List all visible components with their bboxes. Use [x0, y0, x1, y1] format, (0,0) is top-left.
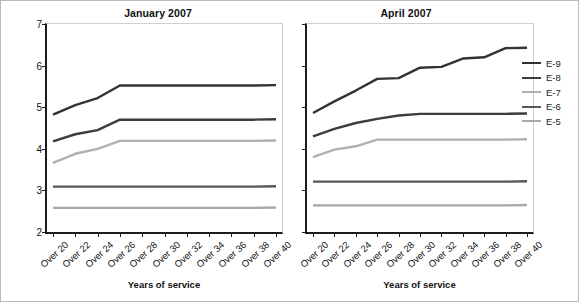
y-axis-tick-label: 7 — [36, 19, 47, 30]
x-axis-tick-mark — [120, 232, 121, 237]
legend-item-e-5[interactable]: E-5 — [522, 114, 578, 129]
panel-title-april: April 2007 — [286, 7, 526, 19]
x-axis-title-january: Years of service — [45, 279, 283, 290]
y-axis-tick-mark — [302, 149, 307, 150]
y-axis-tick-label: 6 — [36, 60, 47, 71]
series-line-e-9 — [53, 85, 276, 115]
legend-item-e-7[interactable]: E-7 — [522, 85, 578, 100]
x-axis-tick-mark — [187, 232, 188, 237]
x-axis-tick-mark — [399, 232, 400, 237]
y-axis-tick-label: 5 — [36, 102, 47, 113]
x-axis-tick-mark — [484, 232, 485, 237]
series-line-e-7 — [313, 139, 527, 157]
panel-title-january: January 2007 — [1, 7, 291, 19]
legend: E-9E-8E-7E-6E-5 — [522, 56, 578, 129]
y-axis-tick-label: 3 — [36, 185, 47, 196]
x-axis-tick-mark — [506, 232, 507, 237]
x-axis-tick-mark — [142, 232, 143, 237]
y-axis-tick-mark — [302, 232, 307, 233]
series-line-e-7 — [53, 140, 276, 162]
legend-item-label: E-5 — [546, 116, 561, 127]
y-axis-tick-mark — [302, 24, 307, 25]
legend-item-e-9[interactable]: E-9 — [522, 56, 578, 71]
y-axis-tick-label: 2 — [36, 227, 47, 238]
legend-item-label: E-7 — [546, 87, 561, 98]
y-axis-tick-mark — [302, 190, 307, 191]
legend-swatch-icon — [522, 91, 541, 93]
x-axis-tick-mark — [53, 232, 54, 237]
y-axis-tick-mark — [302, 66, 307, 67]
figure-container: Basic pay ($ thousands) January 2007 234… — [0, 0, 579, 302]
x-axis-tick-mark — [75, 232, 76, 237]
x-axis-tick-mark — [527, 232, 528, 237]
series-line-e-8 — [53, 119, 276, 141]
legend-swatch-icon — [522, 106, 541, 108]
x-axis-title-april: Years of service — [305, 279, 534, 290]
x-axis-tick-mark — [463, 232, 464, 237]
x-axis-tick-mark — [98, 232, 99, 237]
series-line-e-8 — [313, 113, 527, 136]
x-axis-tick-mark — [165, 232, 166, 237]
legend-item-e-8[interactable]: E-8 — [522, 71, 578, 86]
plot-area-april: Over 20Over 22Over 24Over 26Over 28Over … — [305, 23, 534, 234]
series-lines-january — [47, 24, 285, 235]
y-axis-tick-label: 4 — [36, 143, 47, 154]
chart-panel-january: January 2007 234567Over 20Over 22Over 24… — [1, 1, 291, 302]
legend-item-e-6[interactable]: E-6 — [522, 100, 578, 115]
legend-swatch-icon — [522, 62, 541, 64]
x-axis-tick-mark — [377, 232, 378, 237]
x-axis-tick-mark — [334, 232, 335, 237]
x-axis-tick-mark — [254, 232, 255, 237]
series-lines-april — [307, 24, 536, 235]
y-axis-tick-mark — [302, 107, 307, 108]
plot-area-january: 234567Over 20Over 22Over 24Over 26Over 2… — [45, 23, 283, 234]
legend-item-label: E-8 — [546, 72, 561, 83]
x-axis-tick-mark — [276, 232, 277, 237]
x-axis-tick-mark — [209, 232, 210, 237]
x-axis-tick-mark — [441, 232, 442, 237]
chart-panel-april: April 2007 Over 20Over 22Over 24Over 26O… — [286, 1, 526, 302]
x-axis-tick-mark — [356, 232, 357, 237]
series-line-e-9 — [313, 48, 527, 113]
legend-item-label: E-6 — [546, 101, 561, 112]
legend-swatch-icon — [522, 120, 541, 122]
legend-item-label: E-9 — [546, 58, 561, 69]
legend-swatch-icon — [522, 77, 541, 79]
x-axis-tick-mark — [231, 232, 232, 237]
x-axis-tick-mark — [313, 232, 314, 237]
x-axis-tick-mark — [420, 232, 421, 237]
